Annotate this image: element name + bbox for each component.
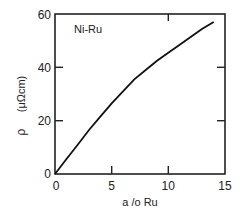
plot-frame bbox=[55, 14, 225, 174]
y-axis-unit: (μΩcm) bbox=[15, 76, 27, 113]
y-tick-40: 40 bbox=[38, 61, 52, 75]
chart: 60 40 20 0 0 5 10 15 a /o Ru Ni-Ru (μΩcm… bbox=[0, 0, 242, 211]
y-tick-0: 0 bbox=[44, 167, 51, 181]
y-axis-rho: ρ bbox=[14, 128, 28, 135]
y-axis-label: (μΩcm) ρ bbox=[14, 76, 28, 136]
x-tick-5: 5 bbox=[108, 179, 115, 193]
resistivity-curve bbox=[55, 22, 214, 174]
x-tick-0: 0 bbox=[53, 179, 60, 193]
y-tick-60: 60 bbox=[38, 8, 52, 22]
annotation-ni-ru: Ni-Ru bbox=[74, 23, 102, 35]
x-axis-label: a /o Ru bbox=[122, 196, 157, 208]
x-tick-10: 10 bbox=[162, 179, 176, 193]
y-tick-20: 20 bbox=[38, 114, 52, 128]
x-tick-15: 15 bbox=[218, 179, 232, 193]
